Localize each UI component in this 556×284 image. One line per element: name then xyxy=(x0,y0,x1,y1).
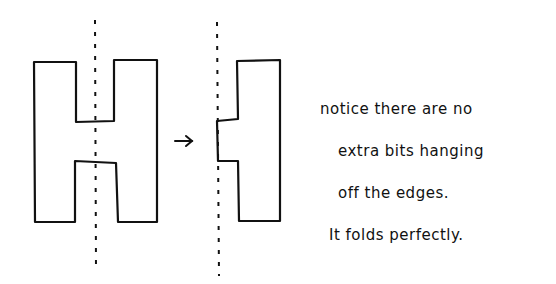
folded-half-shape xyxy=(217,60,280,221)
note-line-1: notice there are no xyxy=(320,100,473,118)
fold-line-left xyxy=(95,20,96,272)
note-line-3: off the edges. xyxy=(338,184,449,202)
arrow-icon xyxy=(175,136,192,146)
note-line-2: extra bits hanging xyxy=(338,142,484,160)
note-line-4: It folds perfectly. xyxy=(329,226,464,244)
